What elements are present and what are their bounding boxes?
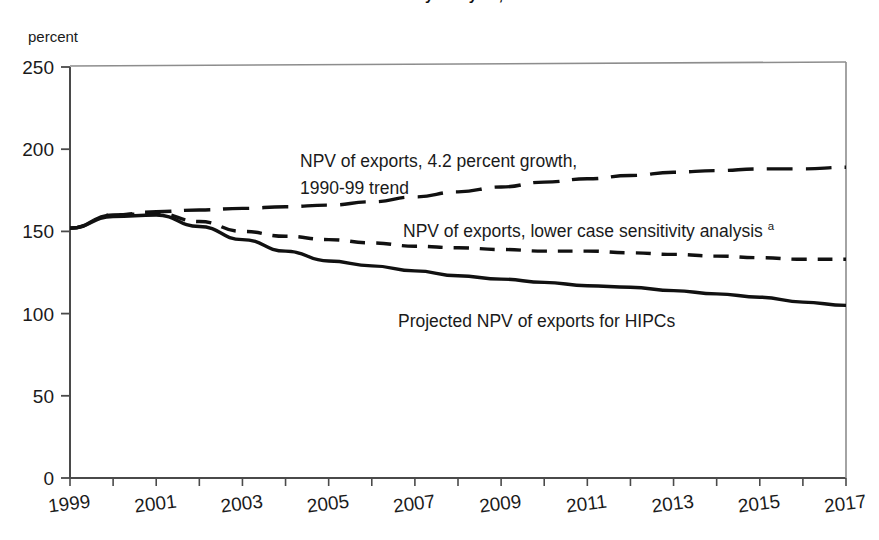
chart-plot-area: 050100150200250 199920012003200520072009… — [0, 0, 879, 540]
y-axis-ticks: 050100150200250 — [22, 57, 70, 489]
x-tick-label: 2011 — [565, 491, 608, 517]
x-tick-label: 2009 — [478, 491, 523, 517]
y-axis-caption: percent — [28, 28, 78, 45]
annotation-footnote-marker: a — [768, 220, 775, 232]
x-tick-label: 2007 — [392, 491, 437, 517]
x-tick-label: 2013 — [651, 491, 696, 517]
annotation-lower-case: NPV of exports, lower case sensitivity a… — [403, 220, 775, 241]
series-annotations: NPV of exports, 4.2 percent growth,1990-… — [300, 151, 775, 331]
y-tick-label: 150 — [22, 221, 54, 242]
x-tick-label: 2003 — [219, 491, 264, 517]
series-line-1 — [70, 167, 846, 228]
annotation-growth-trend-line2: 1990-99 trend — [300, 178, 409, 198]
y-tick-label: 100 — [22, 304, 54, 325]
x-tick-label: 2001 — [133, 491, 178, 517]
chart-figure: debt sustainability analysis, 1999-2017 … — [0, 0, 879, 540]
x-tick-label: 1999 — [47, 491, 92, 517]
axes — [70, 62, 846, 478]
x-tick-label: 2005 — [306, 491, 351, 517]
y-tick-label: 0 — [43, 468, 54, 489]
x-tick-label: 2015 — [737, 491, 782, 517]
annotation-growth-trend-line1: NPV of exports, 4.2 percent growth, — [300, 151, 577, 171]
x-axis-ticks: 1999200120032005200720092011201320152017 — [47, 478, 868, 517]
x-tick-label: 2017 — [823, 491, 868, 517]
chart-title: debt sustainability analysis, 1999-2017 — [0, 0, 879, 4]
y-tick-label: 200 — [22, 139, 54, 160]
y-tick-label: 250 — [22, 57, 54, 78]
y-tick-label: 50 — [33, 386, 54, 407]
annotation-projected-hipcs: Projected NPV of exports for HIPCs — [398, 311, 675, 331]
